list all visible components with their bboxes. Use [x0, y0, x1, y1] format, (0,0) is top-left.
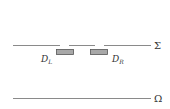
screen-label: Σ — [154, 40, 161, 51]
plane-label: Ω — [154, 93, 162, 104]
detector-right — [91, 50, 108, 55]
detector-left-label: DL — [40, 54, 52, 65]
diagram-svg: Σ DL DR Ω — [0, 0, 170, 109]
detector-right-label: DR — [111, 54, 124, 65]
diagram-canvas: Σ DL DR Ω — [0, 0, 170, 109]
detector-left — [57, 50, 74, 55]
